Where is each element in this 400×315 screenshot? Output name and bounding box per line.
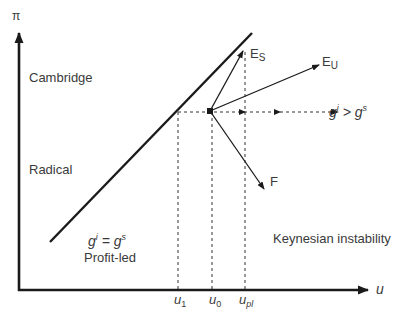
condition-gi-greater-gs: gi > gs [329,103,368,120]
tick-u1: u1 [174,292,186,309]
condition-gi-equals-gs: gi = gs [88,232,127,249]
dashed-horizontal-arrow [178,109,338,115]
region-keynesian-instability: Keynesian instability [273,231,391,246]
dashed-guides [178,52,245,290]
region-cambridge: Cambridge [29,70,93,85]
tick-upl: upl [239,292,254,309]
y-axis-label: π [12,9,20,23]
label-es: ES [250,46,266,63]
region-radical: Radical [29,162,72,177]
label-f: F [270,174,278,189]
eu-vector [210,65,319,111]
x-axis-label: u [376,281,384,297]
diagram-canvas: π u Cambridge Radical Profit-led Keynesi… [0,0,400,315]
label-eu: EU [322,54,338,71]
f-vector [210,111,264,189]
region-profit-led: Profit-led [84,250,136,265]
equilibrium-line [50,33,252,242]
tick-u0: u0 [209,292,221,309]
initial-point [207,108,213,114]
